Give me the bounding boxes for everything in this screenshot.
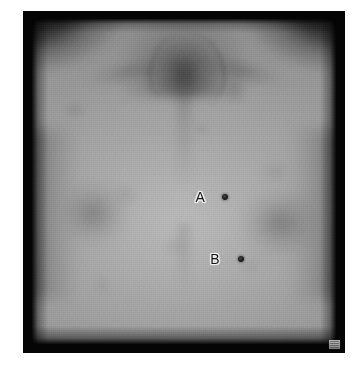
lesion-marker-b bbox=[238, 256, 244, 262]
photograph-canvas: AB bbox=[32, 19, 336, 344]
lesion-marker-a bbox=[222, 194, 228, 200]
clinical-photo-figure: AB bbox=[0, 0, 363, 366]
photo-border-frame: AB bbox=[23, 11, 345, 353]
photo-vignette bbox=[32, 19, 336, 344]
print-corner-mark bbox=[329, 340, 340, 349]
